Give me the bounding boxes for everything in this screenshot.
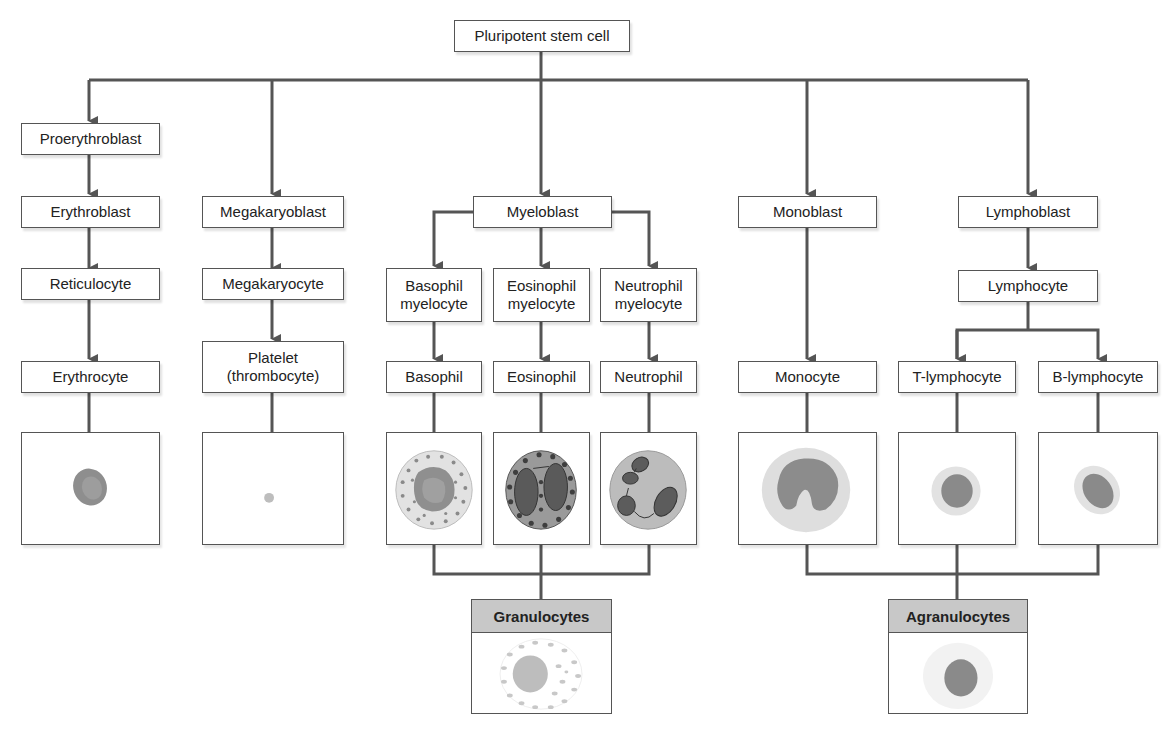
node-platelet: Platelet (thrombocyte) — [202, 341, 344, 393]
node-erythroblast: Erythroblast — [21, 196, 160, 228]
node-label: B-lymphocyte — [1053, 368, 1144, 386]
node-label-line2: (thrombocyte) — [227, 367, 320, 385]
node-label: Erythroblast — [50, 203, 130, 221]
monocyte-cell-icon — [739, 433, 876, 544]
group-granulocytes: Granulocytes — [471, 599, 612, 714]
node-pluripotent-stem-cell: Pluripotent stem cell — [454, 20, 630, 52]
node-eosinophil-myelocyte: Eosinophil myelocyte — [493, 268, 590, 322]
node-b-lymphocyte: B-lymphocyte — [1038, 361, 1158, 393]
neutrophil-cell-icon — [601, 433, 696, 544]
node-neutrophil: Neutrophil — [600, 361, 697, 393]
group-header: Agranulocytes — [889, 600, 1027, 633]
node-label: Megakaryocyte — [222, 275, 324, 293]
node-eosinophil: Eosinophil — [493, 361, 590, 393]
group-header: Granulocytes — [472, 600, 611, 633]
node-label: Lymphoblast — [986, 203, 1071, 221]
erythrocyte-cell-icon — [22, 433, 159, 544]
node-label: Pluripotent stem cell — [474, 27, 609, 45]
node-label-line1: Platelet — [248, 349, 298, 367]
node-lymphocyte: Lymphocyte — [958, 270, 1098, 302]
node-basophil-myelocyte: Basophil myelocyte — [386, 268, 482, 322]
node-neutrophil-myelocyte: Neutrophil myelocyte — [600, 268, 697, 322]
group-label: Granulocytes — [494, 608, 590, 625]
node-t-lymphocyte: T-lymphocyte — [898, 361, 1016, 393]
node-label-line2: myelocyte — [400, 295, 468, 313]
node-label-line2: myelocyte — [508, 295, 576, 313]
platelet-cell-icon — [203, 433, 343, 544]
eosinophil-illustration — [493, 432, 590, 545]
t-lymphocyte-cell-icon — [899, 433, 1015, 544]
node-label: Lymphocyte — [988, 277, 1068, 295]
basophil-cell-icon — [387, 433, 481, 544]
hematopoiesis-diagram: Pluripotent stem cell Proerythroblast Er… — [0, 0, 1176, 729]
node-reticulocyte: Reticulocyte — [21, 268, 160, 300]
node-label: Megakaryoblast — [220, 203, 326, 221]
node-monoblast: Monoblast — [738, 196, 877, 228]
node-monocyte: Monocyte — [738, 361, 877, 393]
node-label: Eosinophil — [507, 368, 576, 386]
node-label-line1: Neutrophil — [614, 277, 682, 295]
t-lymphocyte-illustration — [898, 432, 1016, 545]
node-label-line1: Basophil — [405, 277, 463, 295]
node-label-line2: myelocyte — [615, 295, 683, 313]
b-lymphocyte-illustration — [1038, 432, 1158, 545]
group-agranulocytes: Agranulocytes — [888, 599, 1028, 714]
node-proerythroblast: Proerythroblast — [21, 123, 160, 155]
erythrocyte-illustration — [21, 432, 160, 545]
basophil-illustration — [386, 432, 482, 545]
eosinophil-cell-icon — [494, 433, 589, 544]
node-megakaryocyte: Megakaryocyte — [202, 268, 344, 300]
node-label: Monocyte — [775, 368, 840, 386]
node-megakaryoblast: Megakaryoblast — [202, 196, 344, 228]
agranulocyte-cell-icon — [889, 633, 1027, 713]
platelet-illustration — [202, 432, 344, 545]
node-label: T-lymphocyte — [912, 368, 1001, 386]
granulocyte-cell-icon — [472, 633, 611, 713]
b-lymphocyte-cell-icon — [1039, 433, 1157, 544]
node-label-line1: Eosinophil — [507, 277, 576, 295]
node-label: Myeloblast — [507, 203, 579, 221]
node-erythrocyte: Erythrocyte — [21, 361, 160, 393]
node-basophil: Basophil — [386, 361, 482, 393]
node-label: Neutrophil — [614, 368, 682, 386]
node-label: Monoblast — [773, 203, 842, 221]
node-label: Erythrocyte — [53, 368, 129, 386]
node-lymphoblast: Lymphoblast — [958, 196, 1098, 228]
node-label: Reticulocyte — [50, 275, 132, 293]
node-label: Proerythroblast — [40, 130, 142, 148]
node-label: Basophil — [405, 368, 463, 386]
node-myeloblast: Myeloblast — [473, 196, 612, 228]
monocyte-illustration — [738, 432, 877, 545]
neutrophil-illustration — [600, 432, 697, 545]
group-label: Agranulocytes — [906, 608, 1010, 625]
